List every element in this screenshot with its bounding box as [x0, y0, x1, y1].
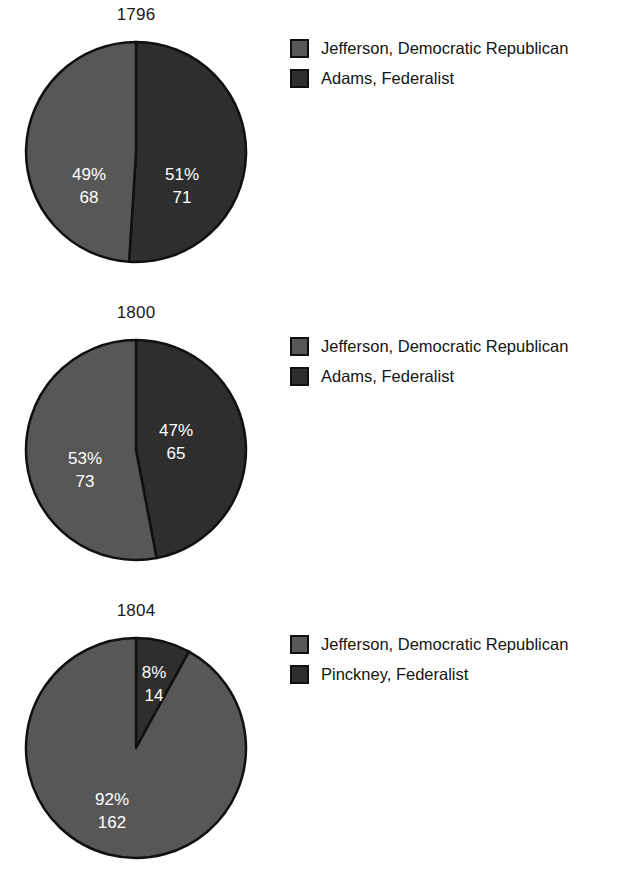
pie-svg: 47% 65 53% 73	[23, 337, 249, 563]
legend-item-republican[interactable]: Jefferson, Democratic Republican	[290, 33, 568, 63]
chart-title: 1804	[0, 601, 272, 621]
slice-value-label: 68	[80, 188, 99, 207]
pie-chart-1804: 8% 14 92% 162	[23, 635, 249, 861]
slice-percent-label: 51%	[165, 165, 199, 184]
pie-chart-1796: 51% 71 49% 68	[23, 39, 249, 265]
pie-slices	[26, 340, 246, 560]
chart-title: 1796	[0, 5, 272, 25]
slice-value-label: 162	[98, 813, 126, 832]
slice-value-label: 14	[145, 686, 164, 705]
pie-slice-republican[interactable]	[26, 638, 246, 858]
legend-item-federalist[interactable]: Adams, Federalist	[290, 63, 568, 93]
pie-slice-federalist[interactable]	[136, 340, 246, 558]
slice-value-label: 65	[167, 444, 186, 463]
slice-percent-label: 53%	[68, 449, 102, 468]
legend-item-republican[interactable]: Jefferson, Democratic Republican	[290, 629, 568, 659]
slice-percent-label: 8%	[142, 663, 167, 682]
slice-value-label: 73	[76, 472, 95, 491]
legend-swatch-icon	[290, 665, 309, 684]
slice-percent-label: 92%	[95, 790, 129, 809]
pie-slices	[26, 42, 246, 262]
pie-svg: 51% 71 49% 68	[23, 39, 249, 265]
pie-svg: 8% 14 92% 162	[23, 635, 249, 861]
legend-swatch-icon	[290, 39, 309, 58]
chart-legend: Jefferson, Democratic Republican Adams, …	[290, 33, 568, 93]
chart-legend: Jefferson, Democratic Republican Adams, …	[290, 331, 568, 391]
pie-slice-republican[interactable]	[26, 42, 136, 262]
legend-item-label: Adams, Federalist	[321, 368, 454, 385]
pie-slice-federalist[interactable]	[129, 42, 246, 262]
legend-item-label: Jefferson, Democratic Republican	[321, 40, 568, 57]
legend-item-label: Jefferson, Democratic Republican	[321, 338, 568, 355]
chart-legend: Jefferson, Democratic Republican Pinckne…	[290, 629, 568, 689]
slice-value-label: 71	[173, 188, 192, 207]
legend-swatch-icon	[290, 69, 309, 88]
legend-item-label: Pinckney, Federalist	[321, 666, 468, 683]
legend-swatch-icon	[290, 337, 309, 356]
pie-slices	[26, 638, 246, 858]
legend-item-label: Jefferson, Democratic Republican	[321, 636, 568, 653]
slice-percent-label: 47%	[159, 421, 193, 440]
legend-item-republican[interactable]: Jefferson, Democratic Republican	[290, 331, 568, 361]
pie-chart-1800: 47% 65 53% 73	[23, 337, 249, 563]
legend-swatch-icon	[290, 367, 309, 386]
legend-item-label: Adams, Federalist	[321, 70, 454, 87]
legend-item-federalist[interactable]: Adams, Federalist	[290, 361, 568, 391]
legend-swatch-icon	[290, 635, 309, 654]
legend-item-federalist[interactable]: Pinckney, Federalist	[290, 659, 568, 689]
slice-percent-label: 49%	[72, 165, 106, 184]
chart-title: 1800	[0, 303, 272, 323]
